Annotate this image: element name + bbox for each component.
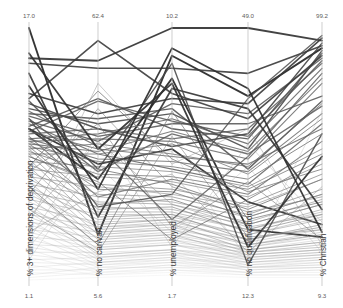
axis-title-nocarvan: % no car/van: [94, 227, 104, 276]
axis-min-tick-deprivation: 1.1: [25, 292, 34, 299]
axis-title-deprivation: % 3+ dimensions of deprivation: [25, 160, 35, 276]
axis-max-tick-christian: 99.2: [316, 12, 329, 19]
axis-max-tick-deprivation: 17.0: [23, 12, 36, 19]
data-polyline: [29, 63, 322, 139]
axis-min-tick-christian: 9.3: [318, 292, 327, 299]
parallel-coordinates-chart: 17.01.1% 3+ dimensions of deprivation62.…: [0, 0, 343, 308]
axis-min-tick-unemployed: 1.7: [168, 292, 177, 299]
axis-min-tick-nocarvan: 5.6: [94, 292, 103, 299]
axis-max-tick-unemployed: 10.2: [166, 12, 179, 19]
data-polyline: [29, 28, 322, 61]
chart-canvas: 17.01.1% 3+ dimensions of deprivation62.…: [0, 0, 343, 308]
axis-max-tick-nocarvan: 62.4: [92, 12, 105, 19]
axis-title-christian: % Christian: [318, 233, 328, 276]
axis-min-tick-noqual: 12.3: [242, 292, 255, 299]
axis-max-tick-noqual: 49.0: [242, 12, 255, 19]
axis-title-noqual: % no qualification: [244, 211, 254, 276]
axis-title-unemployed: % unemployed: [168, 221, 178, 276]
